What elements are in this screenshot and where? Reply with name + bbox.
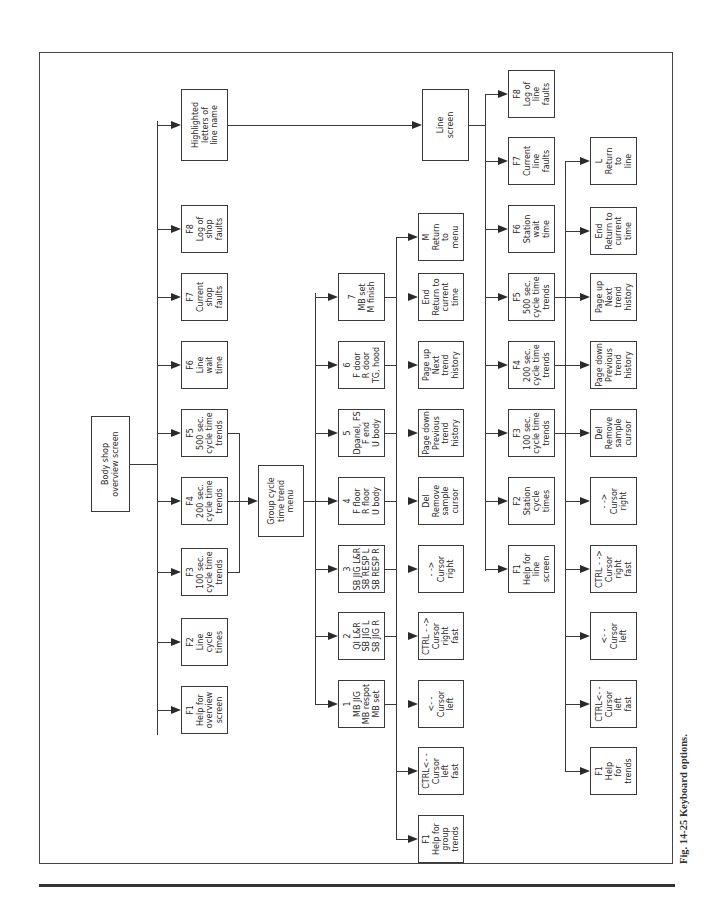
arrow-icon bbox=[498, 497, 508, 505]
connector bbox=[385, 636, 397, 637]
arrow-icon bbox=[328, 497, 338, 505]
node-label: Del Remove sample cursor bbox=[422, 485, 460, 517]
arrow-icon bbox=[408, 293, 418, 301]
arrow-icon bbox=[498, 565, 508, 573]
arrow-icon bbox=[171, 638, 181, 646]
arrow-icon bbox=[498, 361, 508, 369]
line-key-f3: F3 100 sec. cycle time trends bbox=[508, 409, 555, 457]
overview-key-f3: F3 100 sec. cycle time trends bbox=[181, 548, 228, 596]
line-trend-key-f1: F1 Help for trends bbox=[590, 747, 637, 795]
group-trend-key-right: - -> Cursor right bbox=[418, 545, 464, 593]
line-key-f8: F8 Log of line faults bbox=[508, 70, 555, 118]
arrow-icon bbox=[328, 429, 338, 437]
line-key-f1: F1 Help for line screen bbox=[508, 545, 555, 593]
arrow-icon bbox=[408, 835, 418, 843]
node-label: F3 100 sec. cycle time trends bbox=[185, 551, 223, 592]
arrow-icon bbox=[580, 700, 590, 708]
group-trend-key-del: Del Remove sample cursor bbox=[418, 477, 464, 525]
group-5: 5 Dpanel, FS F end U body bbox=[338, 409, 385, 457]
arrow-icon bbox=[408, 233, 418, 241]
node-label: F1 Help for line screen bbox=[512, 553, 550, 585]
node-label: F2 Station cycle times bbox=[512, 487, 550, 515]
node-label: Group cycle time trend menu bbox=[267, 477, 296, 525]
node-label: F1 Help for group trends bbox=[422, 823, 460, 855]
group-trend-key-left: <- - Cursor left bbox=[418, 680, 464, 728]
group-trend-key-pagedown: Page down Previous trend history bbox=[418, 409, 464, 457]
arrow-icon bbox=[408, 497, 418, 505]
arrow-icon bbox=[408, 632, 418, 640]
arrow-icon bbox=[171, 121, 181, 129]
node-label: CTRL<- - Cursor left fast bbox=[422, 753, 460, 789]
connector bbox=[130, 464, 158, 465]
node-label: End Return to current time bbox=[594, 212, 632, 249]
connector bbox=[385, 365, 397, 366]
arrow-icon bbox=[408, 700, 418, 708]
arrow-icon bbox=[580, 632, 590, 640]
node-label: 4 F floor R floor U body bbox=[342, 487, 380, 515]
arrow-icon bbox=[580, 227, 590, 235]
node-label: <- - Cursor left bbox=[427, 691, 456, 717]
line-key-f6: F6 Station wait time bbox=[508, 205, 555, 253]
arrow-icon bbox=[328, 700, 338, 708]
node-label: F7 Current shop faults bbox=[185, 282, 223, 312]
line-trend-key-del: Del Remove sample cursor bbox=[590, 409, 637, 457]
arrow-icon bbox=[498, 225, 508, 233]
node-label: Highlighted letters of line name bbox=[190, 102, 219, 148]
node-label: F8 Log of line faults bbox=[512, 82, 550, 107]
line-key-f5: F5 500 sec. cycle time trends bbox=[508, 273, 555, 321]
group-6: 6 F door R door TG, hood bbox=[338, 341, 385, 389]
node-label: M Return to menu bbox=[422, 224, 460, 251]
connector bbox=[239, 433, 240, 573]
connector bbox=[385, 569, 397, 570]
node-label: F5 500 sec. cycle time trends bbox=[185, 412, 223, 453]
connector bbox=[385, 433, 397, 434]
page-rule bbox=[39, 884, 675, 887]
node-label: F6 Station wait time bbox=[512, 215, 550, 243]
arrow-icon bbox=[580, 157, 590, 165]
arrow-icon bbox=[580, 497, 590, 505]
node-label: F5 500 sec. cycle time trends bbox=[512, 276, 550, 317]
connector bbox=[565, 433, 582, 434]
node-label: Page up Next trend history bbox=[422, 349, 460, 381]
node-label: 5 Dpanel, FS F end U body bbox=[342, 412, 380, 455]
group-3: 3 SB JIG L&R SB RESP L SB RESP R bbox=[338, 545, 385, 593]
overview-key-f8: F8 Log of shop faults bbox=[181, 205, 228, 253]
arrow-icon bbox=[408, 429, 418, 437]
connector bbox=[565, 365, 582, 366]
arrow-icon bbox=[412, 121, 422, 129]
body-shop-overview-node: Body shop overview screen bbox=[91, 416, 130, 512]
node-label: Page down Previous trend history bbox=[422, 411, 460, 455]
node-label: <- - Cursor left bbox=[599, 623, 628, 649]
group-2: 2 QI L&R SB JIG L SB JIG R bbox=[338, 612, 385, 660]
overview-key-f4: F4 200 sec. cycle time trends bbox=[181, 477, 228, 525]
line-trend-key-end: End Return to current time bbox=[590, 207, 637, 255]
connector bbox=[385, 501, 397, 502]
line-trend-key-ctrl-left: CTRL<- - Cursor left fast bbox=[590, 680, 637, 728]
node-label: F7 Current line faults bbox=[512, 146, 550, 176]
line-trend-key-pageup: Page up Next trend history bbox=[590, 273, 637, 321]
node-label: F2 Line cycle times bbox=[185, 631, 223, 653]
line-trend-key-right: - -> Cursor right bbox=[590, 477, 637, 525]
node-label: F4 200 sec. cycle time trends bbox=[185, 480, 223, 521]
node-label: Body shop overview screen bbox=[101, 431, 120, 496]
line-trend-key-pagedown: Page down Previous trend history bbox=[590, 341, 637, 389]
group-4: 4 F floor R floor U body bbox=[338, 477, 385, 525]
arrow-icon bbox=[171, 225, 181, 233]
connector bbox=[485, 94, 486, 571]
node-label: CTRL - -> Cursor right fast bbox=[422, 617, 460, 655]
arrow-icon bbox=[328, 361, 338, 369]
arrow-icon bbox=[408, 767, 418, 775]
node-label: Del Remove sample cursor bbox=[594, 417, 632, 449]
overview-highlighted-letters: Highlighted letters of line name bbox=[181, 89, 228, 161]
arrow-icon bbox=[328, 565, 338, 573]
node-label: F3 100 sec. cycle time trends bbox=[512, 412, 550, 453]
group-trend-key-m: M Return to menu bbox=[418, 213, 464, 261]
group-trend-key-end: End Return to current time bbox=[418, 273, 464, 321]
diagram-frame bbox=[39, 52, 673, 864]
connector bbox=[565, 161, 566, 771]
overview-key-f5: F5 500 sec. cycle time trends bbox=[181, 409, 228, 457]
line-key-f2: F2 Station cycle times bbox=[508, 477, 555, 525]
arrow-icon bbox=[171, 361, 181, 369]
connector bbox=[315, 293, 316, 705]
node-label: F6 Line wait time bbox=[185, 356, 223, 374]
